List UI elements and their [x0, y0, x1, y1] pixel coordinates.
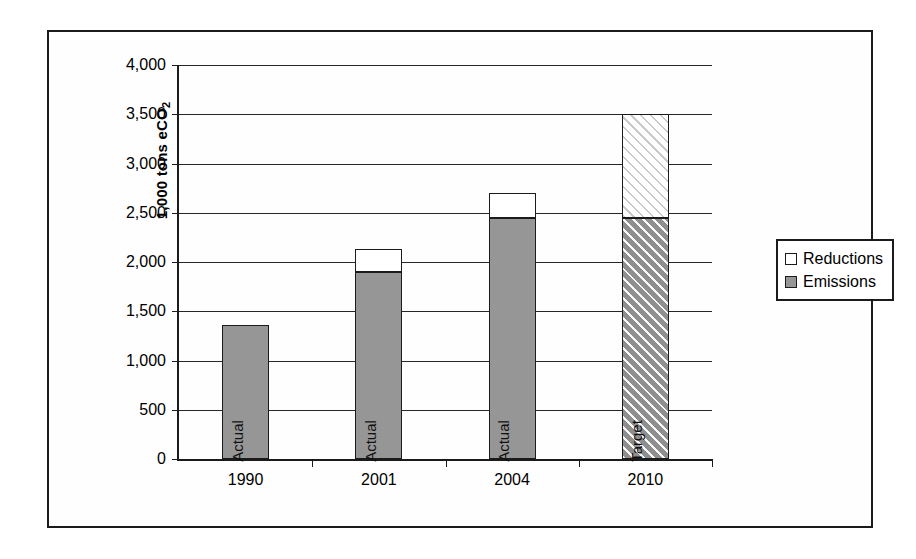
legend: Reductions Emissions — [776, 239, 894, 301]
y-axis-label: 500 — [139, 401, 166, 419]
legend-label-emissions: Emissions — [803, 270, 876, 293]
bar-segment-reductions[interactable] — [622, 114, 669, 217]
y-axis-tick — [172, 410, 179, 411]
bar-group-2010[interactable]: Target — [622, 65, 669, 459]
y-axis-label: 3,500 — [126, 105, 166, 123]
bar-group-2004[interactable]: Actual — [489, 65, 536, 459]
y-axis-label: 2,000 — [126, 253, 166, 271]
y-axis-label: 2,500 — [126, 204, 166, 222]
y-axis-label: 4,000 — [126, 56, 166, 74]
y-axis-tick — [172, 65, 179, 66]
bar-annotation: Actual — [495, 420, 512, 462]
y-axis-tick — [172, 459, 179, 460]
y-axis-tick — [172, 114, 179, 115]
y-axis-label: 1,000 — [126, 352, 166, 370]
bar-annotation: Actual — [362, 420, 379, 462]
y-axis-tick — [172, 311, 179, 312]
legend-item-emissions[interactable]: Emissions — [785, 270, 883, 293]
y-axis-tick — [172, 213, 179, 214]
bar-segment-reductions[interactable] — [489, 193, 536, 218]
bar-annotation: Actual — [229, 420, 246, 462]
legend-swatch-reductions-icon — [785, 253, 797, 265]
bar-annotation: Target — [628, 420, 645, 462]
bar-group-1990[interactable]: Actual — [222, 65, 269, 459]
y-axis-tick — [172, 361, 179, 362]
x-axis-tick — [446, 459, 447, 467]
x-axis-tick — [579, 459, 580, 467]
y-axis-label: 0 — [157, 450, 166, 468]
x-axis-label-2010: 2010 — [628, 471, 664, 489]
y-axis-label: 3,000 — [126, 155, 166, 173]
legend-item-reductions[interactable]: Reductions — [785, 247, 883, 270]
bar-segment-reductions[interactable] — [355, 249, 402, 272]
bar-group-2001[interactable]: Actual — [355, 65, 402, 459]
x-axis-tick — [312, 459, 313, 467]
x-axis-label-2001: 2001 — [361, 471, 397, 489]
y-axis-tick — [172, 164, 179, 165]
chart-frame: 1,000 tons eCO2 4,000 3,500 3,000 2,500 … — [47, 30, 873, 528]
legend-swatch-emissions-icon — [785, 276, 797, 288]
x-axis-tick — [712, 459, 713, 467]
y-axis-tick — [172, 262, 179, 263]
plot-area: 4,000 3,500 3,000 2,500 2,000 1,500 1,00… — [177, 65, 712, 461]
x-axis-label-2004: 2004 — [494, 471, 530, 489]
legend-label-reductions: Reductions — [803, 247, 883, 270]
x-axis-label-1990: 1990 — [228, 471, 264, 489]
y-axis-label: 1,500 — [126, 302, 166, 320]
